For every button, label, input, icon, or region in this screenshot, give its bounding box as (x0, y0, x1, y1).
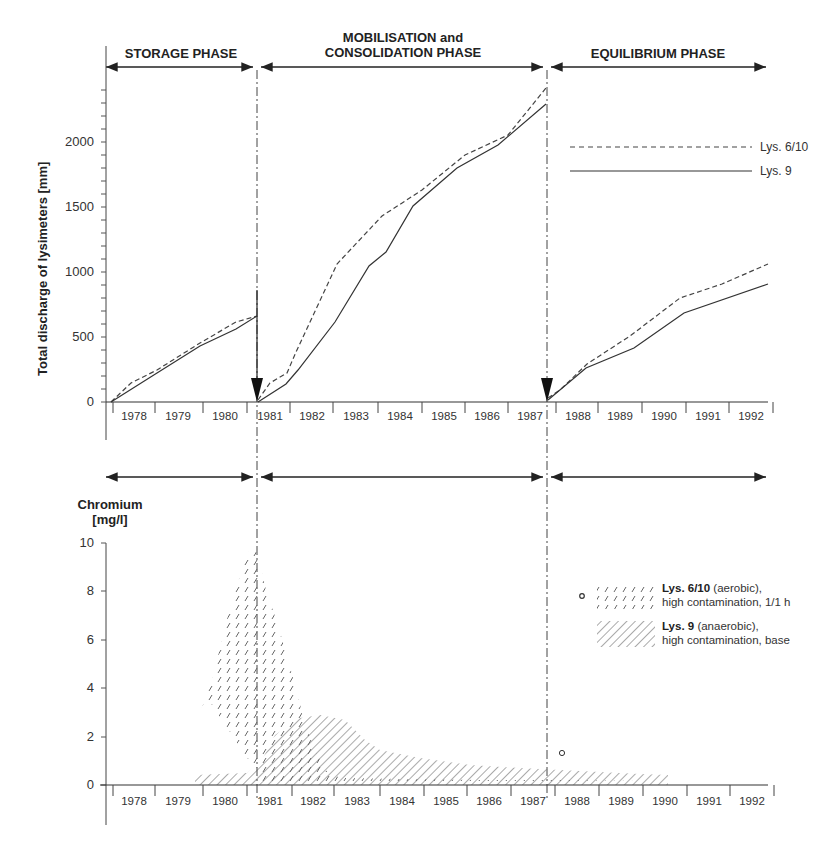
reset-arrows (251, 290, 553, 402)
bottom-year-label: 1992 (732, 795, 772, 807)
bottom-ytick: 0 (54, 777, 94, 792)
bottom-legend-lys9: Lys. 9 (anaerobic), high contamination, … (662, 619, 790, 647)
bottom-ytick: 6 (54, 632, 94, 647)
top-year-label: 1984 (380, 410, 420, 422)
top-year-label: 1982 (292, 410, 332, 422)
bottom-year-label: 1982 (293, 795, 333, 807)
bottom-year-label: 1987 (513, 795, 553, 807)
top-year-label: 1979 (158, 410, 198, 422)
top-y-axis-label: Total discharge of lysimeters [mm] (35, 162, 50, 376)
bottom-year-label: 1979 (158, 795, 198, 807)
top-ytick: 1500 (54, 199, 94, 214)
bottom-legend-lys9-desc: (anaerobic), (694, 620, 759, 632)
phase-title-equilibrium: EQUILIBRIUM PHASE (548, 46, 768, 61)
top-year-label: 1990 (644, 410, 684, 422)
top-ytick: 500 (54, 329, 94, 344)
bottom-legend-lys9-name: Lys. 9 (662, 620, 694, 632)
bottom-year-label: 1991 (689, 795, 729, 807)
bottom-y-axis-label-line1: Chromium (60, 497, 160, 512)
legend-point-lys610 (580, 594, 585, 599)
area-lys610-chromium (200, 545, 668, 785)
top-year-label: 1987 (510, 410, 550, 422)
bottom-y-axis-label: Chromium [mg/l] (60, 497, 160, 527)
phase-title-mobilisation: MOBILISATION and CONSOLIDATION PHASE (258, 30, 548, 60)
top-year-label: 1991 (688, 410, 728, 422)
bottom-year-label: 1984 (382, 795, 422, 807)
bottom-legend-lys610-line2: high contamination, 1/1 h (662, 596, 791, 608)
top-legend-lys9-label: Lys. 9 (760, 164, 792, 178)
bottom-year-label: 1983 (337, 795, 377, 807)
bottom-y-axis (101, 543, 106, 825)
top-legend-lys610-label: Lys. 6/10 (760, 140, 808, 154)
top-year-label: 1983 (336, 410, 376, 422)
top-legend-lines (570, 147, 752, 171)
bottom-legend-lys9-line2: high contamination, base (662, 634, 790, 646)
top-year-label: 1980 (205, 410, 245, 422)
series-lys9-discharge (111, 104, 768, 402)
bottom-year-label: 1990 (645, 795, 685, 807)
bottom-year-label: 1989 (601, 795, 641, 807)
bottom-year-label: 1981 (250, 795, 290, 807)
phase-divider-lines (257, 70, 547, 800)
top-ytick: 0 (54, 394, 94, 409)
top-year-label: 1989 (600, 410, 640, 422)
top-year-label: 1988 (558, 410, 598, 422)
point-lys610 (559, 750, 564, 755)
bottom-year-label: 1986 (469, 795, 509, 807)
bottom-legend-lys610-name: Lys. 6/10 (662, 582, 710, 594)
bottom-legend-lys610-desc: (aerobic), (710, 582, 762, 594)
bottom-year-label: 1985 (426, 795, 466, 807)
bottom-ytick: 8 (54, 583, 94, 598)
bottom-year-label: 1988 (557, 795, 597, 807)
top-year-label: 1978 (114, 410, 154, 422)
bottom-ytick: 4 (54, 680, 94, 695)
phase-title-storage: STORAGE PHASE (106, 46, 256, 61)
bottom-ytick: 10 (54, 535, 94, 550)
bottom-y-axis-label-line2: [mg/l] (60, 512, 160, 527)
legend-swatch-lys610 (597, 583, 655, 609)
top-ytick: 2000 (54, 134, 94, 149)
top-year-label: 1981 (250, 410, 290, 422)
bottom-ytick: 2 (54, 729, 94, 744)
phase-title-mobilisation-line1: MOBILISATION and (258, 30, 548, 45)
top-y-axis (101, 46, 106, 440)
top-year-label: 1992 (731, 410, 771, 422)
bottom-year-label: 1978 (114, 795, 154, 807)
top-year-label: 1985 (424, 410, 464, 422)
series-lys610-discharge (111, 88, 768, 402)
legend-swatch-lys9 (597, 621, 655, 647)
top-year-label: 1986 (467, 410, 507, 422)
bottom-legend-lys610: Lys. 6/10 (aerobic), high contamination,… (662, 581, 791, 609)
phase-title-mobilisation-line2: CONSOLIDATION PHASE (258, 45, 548, 60)
top-ytick: 1000 (54, 264, 94, 279)
bottom-year-label: 1980 (205, 795, 245, 807)
